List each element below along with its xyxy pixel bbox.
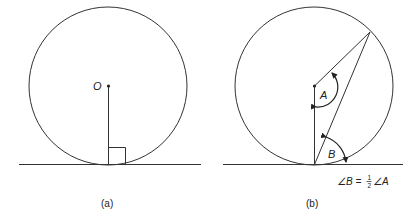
- angle-b-label: B: [328, 148, 335, 160]
- panel-a: O (a): [19, 7, 201, 209]
- equation-suffix: ∠A: [373, 176, 389, 187]
- fraction-denominator: 2: [368, 182, 372, 189]
- radius-to-chord-end: [315, 32, 371, 86]
- caption-a: (a): [101, 198, 113, 209]
- center-label-o: O: [93, 80, 102, 92]
- fraction-numerator: 1: [368, 174, 372, 181]
- angle-a-label: A: [319, 89, 327, 101]
- caption-b: (b): [306, 198, 318, 209]
- equation-prefix: ∠B =: [337, 176, 361, 187]
- tangent-circle-diagram: O (a) A B ∠B = 1 2 ∠A (b): [0, 0, 420, 223]
- center-dot-b: [313, 84, 316, 87]
- equation: ∠B = 1 2 ∠A: [337, 174, 389, 189]
- right-angle-marker: [109, 148, 126, 165]
- panel-b: A B ∠B = 1 2 ∠A (b): [223, 7, 403, 209]
- center-dot-a: [107, 84, 110, 87]
